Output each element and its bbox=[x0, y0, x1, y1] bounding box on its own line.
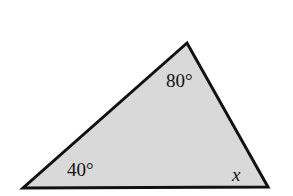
angle-label-bottom-left: 40° bbox=[67, 159, 94, 180]
triangle-diagram: 80° 40° x bbox=[0, 0, 293, 196]
angle-label-top: 80° bbox=[166, 70, 193, 91]
angle-label-bottom-right: x bbox=[231, 164, 241, 185]
